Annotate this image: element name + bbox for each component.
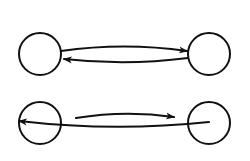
edge-c-to-d <box>76 114 174 118</box>
bottom-pair <box>19 102 230 144</box>
graph-diagram <box>0 0 250 161</box>
node-b <box>188 33 230 75</box>
top-pair <box>19 33 230 75</box>
node-a <box>19 33 61 75</box>
edge-a-to-b <box>61 47 187 52</box>
edge-b-to-a <box>64 58 188 62</box>
